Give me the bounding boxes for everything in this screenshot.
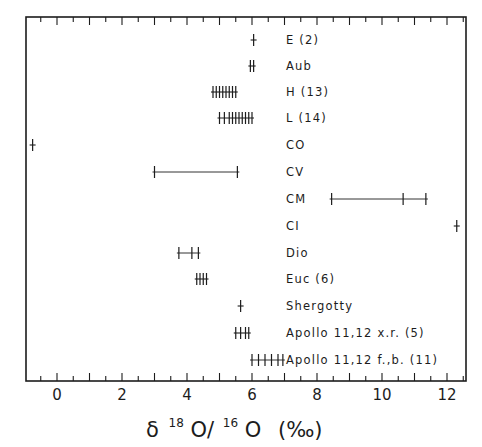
oxygen-isotope-chart: 024681012 E (2)AubH (13)L (14)COCVCMCIDi…: [0, 0, 482, 447]
row-label: CM: [286, 192, 306, 206]
data-row: CM: [286, 192, 428, 206]
data-row: Apollo 11,12 f.,b. (11): [250, 353, 438, 367]
row-label: L (14): [286, 111, 327, 125]
row-label: Dio: [286, 246, 309, 260]
row-label: E (2): [286, 33, 319, 47]
row-label: CO: [286, 138, 305, 152]
x-axis-tick-labels: 024681012: [52, 386, 456, 404]
data-row: Apollo 11,12 x.r. (5): [234, 326, 425, 340]
x-tick-label: 0: [52, 386, 62, 404]
row-label: CV: [286, 165, 304, 179]
x-tick-label: 10: [372, 386, 391, 404]
data-row: Dio: [177, 246, 309, 260]
x-axis-title: δ 18 O/ 16 O (‰): [146, 408, 323, 442]
row-label: Aub: [286, 59, 312, 73]
superscript-16: 16: [223, 416, 238, 430]
unit-permil: (‰): [278, 418, 323, 442]
data-row: H (13): [211, 85, 329, 99]
data-rows: E (2)AubH (13)L (14)COCVCMCIDioEuc (6)Sh…: [30, 33, 460, 367]
data-row: L (14): [218, 111, 327, 125]
x-tick-label: 6: [247, 386, 257, 404]
data-row: CV: [153, 165, 305, 179]
row-label: Euc (6): [286, 272, 335, 286]
row-label: Apollo 11,12 f.,b. (11): [286, 353, 438, 367]
x-tick-label: 4: [182, 386, 192, 404]
data-row: CO: [30, 138, 306, 152]
data-row: CI: [286, 219, 460, 233]
superscript-18: 18: [169, 416, 184, 430]
x-tick-label: 8: [312, 386, 322, 404]
data-row: Aub: [248, 59, 312, 73]
data-row: Shergotty: [238, 299, 354, 313]
data-row: Euc (6): [195, 272, 335, 286]
row-label: H (13): [286, 85, 329, 99]
x-tick-label: 2: [117, 386, 127, 404]
row-label: CI: [286, 219, 300, 233]
oxygen-label-2: O: [245, 418, 262, 442]
row-label: Shergotty: [286, 299, 353, 313]
x-tick-label: 12: [437, 386, 456, 404]
data-row: E (2): [251, 33, 320, 47]
oxygen-label-1: O/: [191, 418, 216, 442]
delta-symbol: δ: [146, 418, 159, 442]
row-label: Apollo 11,12 x.r. (5): [286, 326, 425, 340]
